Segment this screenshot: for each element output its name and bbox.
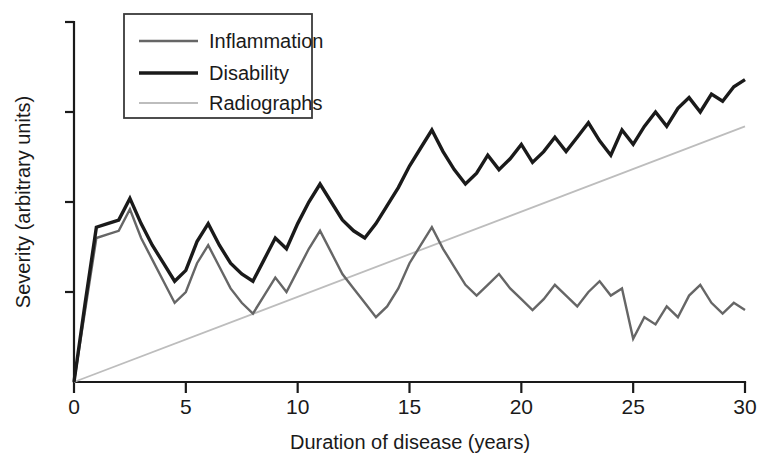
x-axis-tick-label: 20: [510, 395, 533, 418]
x-axis-tick-labels: 051015202530: [68, 395, 757, 418]
chart-legend: InflammationDisabilityRadiographs: [124, 14, 324, 118]
x-axis-tick-label: 15: [398, 395, 421, 418]
x-axis-tick-label: 25: [621, 395, 644, 418]
legend-label-inflammation: Inflammation: [209, 30, 324, 52]
chart-page: 051015202530 Duration of disease (years)…: [0, 0, 781, 465]
x-axis-tick-label: 30: [733, 395, 756, 418]
y-axis-title: Severity (arbitrary units): [12, 96, 34, 308]
x-axis-ticks: [74, 382, 745, 393]
series-line-inflammation: [74, 209, 745, 382]
legend-label-disability: Disability: [209, 62, 289, 84]
legend-label-radiographs: Radiographs: [209, 92, 322, 114]
severity-line-chart: 051015202530 Duration of disease (years)…: [0, 0, 781, 465]
x-axis-tick-label: 5: [180, 395, 192, 418]
x-axis-tick-label: 0: [68, 395, 80, 418]
y-axis-ticks: [65, 22, 74, 292]
series-line-disability: [74, 80, 745, 382]
x-axis-tick-label: 10: [286, 395, 309, 418]
x-axis-title: Duration of disease (years): [290, 431, 530, 453]
chart-series-group: [74, 80, 745, 382]
